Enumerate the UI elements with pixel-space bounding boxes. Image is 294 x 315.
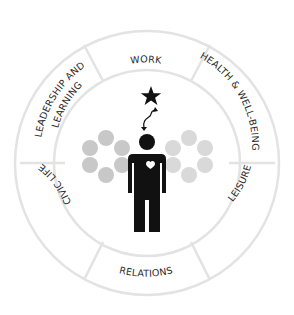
segment-label-relations: RELATIONS — [118, 264, 173, 279]
person-figure-icon — [128, 134, 166, 232]
star-icon — [141, 86, 161, 105]
left-circle-cluster — [82, 130, 130, 183]
segment-label-work: WORK — [130, 53, 164, 66]
squiggly-arrow-icon — [141, 107, 158, 131]
life-domains-wheel: WORK HEALTH & WELL-BEING LEADERSHIP AND … — [0, 0, 294, 315]
segment-label-health: HEALTH & WELL-BEING — [198, 50, 261, 151]
right-circle-cluster — [165, 130, 213, 183]
